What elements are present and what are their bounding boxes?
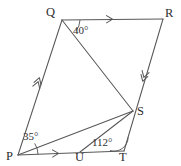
vertex-label-P: P (6, 150, 13, 163)
side-RT (124, 19, 163, 151)
geometry-figure: Q R S T U P 40° 35° 112° (0, 0, 181, 166)
angle-label-Q: 40° (73, 25, 88, 36)
angle-label-P: 35° (23, 131, 38, 142)
vertex-label-Q: Q (46, 6, 55, 19)
vertex-label-T: T (119, 151, 127, 164)
vertex-label-R: R (165, 7, 173, 20)
angle-label-T: 112° (92, 137, 113, 148)
side-PT (18, 151, 124, 155)
vertex-label-S: S (137, 105, 144, 118)
vertex-label-U: U (75, 151, 84, 164)
